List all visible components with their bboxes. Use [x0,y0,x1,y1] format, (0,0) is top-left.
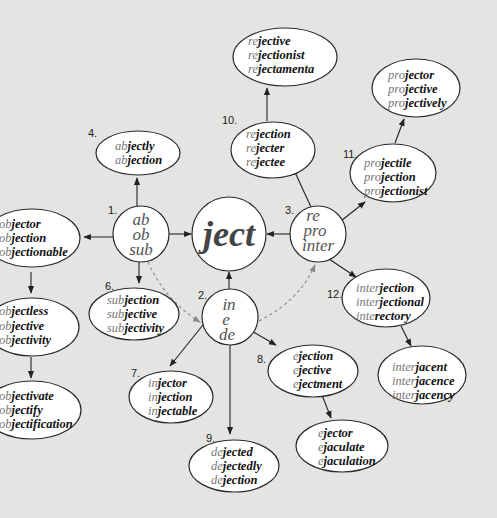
word-root: jectable [156,404,198,418]
word: objectionable [0,245,68,259]
word-prefix: sub [107,321,124,335]
hub-2-prefix-de: de [219,325,236,344]
hub-1-ab-ob-sub: 1. ab ob sub [108,204,169,262]
word: objectivity [0,333,52,347]
word-root: jector [322,426,353,440]
group-11-number: 11. [343,148,357,160]
group-12-interject: 12. interjection interjectional interect… [327,269,430,327]
center-label: ject [198,214,256,254]
word: objective [0,319,45,333]
word: rejecter [246,141,285,155]
word: objector [0,217,41,231]
word-prefix: ab [115,139,128,153]
word-prefix: de [211,445,223,459]
word: abjectly [115,139,155,153]
word: rejective [248,34,291,48]
word-prefix: sub [107,307,124,321]
word-root: jection [379,170,416,184]
word: interectory [356,309,411,323]
word: rejectee [246,155,286,169]
word-root: jectionist [256,48,305,62]
word: dejectedly [211,459,262,473]
group-8-eject: 8. ejection ejective ejectment [257,345,358,397]
word-root: jectile [379,156,412,170]
group-10b-rejective: rejective rejectionist rejectamenta [233,28,337,86]
word-root: jectively [403,96,447,110]
word-prefix: ob [0,333,12,347]
word: abjection [115,153,162,167]
word-prefix: re [248,62,258,76]
word: ejaculate [318,440,365,454]
word-prefix: inter [392,360,416,374]
word-root: jacence [414,374,455,388]
group-6-number: 6. [105,280,114,292]
word: injectable [148,404,198,418]
word-root: jector [403,68,434,82]
word-prefix: in [148,376,158,390]
word-prefix: ob [0,304,12,318]
word-root: jaculate [322,440,365,454]
word-prefix: inte [356,309,375,323]
word-root: jacent [414,360,448,374]
word-prefix: pro [387,68,405,82]
word-root: jecter [254,141,285,155]
word: ejector [318,426,353,440]
word: injection [148,390,192,404]
word-root: jection [122,293,159,307]
group-5b-objectless: objectless objective objectivity [0,298,79,356]
word: projective [387,82,438,96]
word-root: jectionist [379,184,428,198]
word-prefix: pro [387,82,405,96]
word-prefix: ob [0,217,12,231]
word-prefix: re [246,155,256,169]
word-root: jection [297,349,334,363]
word: rejection [246,127,291,141]
group-6-subject: 6. subjection subjective subjectivity [89,280,179,340]
group-11-project: 11. projectile projection projectionist [343,144,436,202]
word-root: jection [10,231,47,245]
group-4-number: 4. [88,127,97,139]
word-root: jectivity [122,321,164,335]
word-prefix: pro [387,96,405,110]
word: dejected [211,445,253,459]
edge-hub3-g12 [329,259,356,277]
word-root: jected [221,445,254,459]
group-8b-ejaculate: ejector ejaculate ejaculation [296,420,388,472]
hub-2-in-e-de: 2. in e de [198,289,258,345]
word-prefix: re [246,141,256,155]
word: objectify [0,403,43,417]
word-root: jector [10,217,41,231]
group-10-number: 10. [222,114,237,126]
word: interjection [356,281,414,295]
group-10-reject: 10. rejection rejecter rejectee [222,114,315,178]
word-root: jectless [10,304,49,318]
word: objection [0,231,46,245]
word-root: jective [256,34,291,48]
word-prefix: in [148,390,158,404]
word-prefix: ob [0,389,12,403]
word-root: jectionable [10,245,69,259]
word: subjectivity [107,321,164,335]
word-root: jectedly [221,459,262,473]
group-12b-interjacent: interjacent interjacence interjacency [378,346,466,404]
word-prefix: inter [392,388,416,402]
group-12-number: 12. [327,288,342,300]
word: projectile [363,156,412,170]
word: objectless [0,304,48,318]
word: rejectionist [248,48,305,62]
word-prefix: ob [0,403,12,417]
word-root: jaculation [322,454,376,468]
hub-1-number: 1. [108,204,117,216]
word-prefix: re [248,48,258,62]
edge-hub2-hub3-dashed [259,265,315,321]
word-prefix: inter [356,281,380,295]
word-prefix: inter [392,374,416,388]
word-root: jectify [10,403,44,417]
word-prefix: ob [0,231,12,245]
word-root: jective [403,82,438,96]
word-root: jective [122,307,157,321]
group-8-number: 8. [257,353,266,365]
word-prefix: in [148,404,158,418]
hub-3-number: 3. [285,204,294,216]
word: projection [363,170,416,184]
